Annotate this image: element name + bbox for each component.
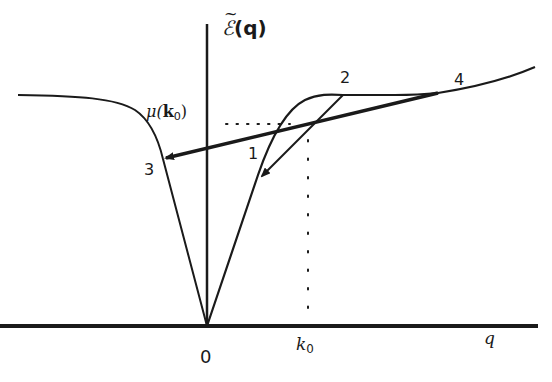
q-axis-label: q xyxy=(484,330,495,347)
k0-main: k xyxy=(296,334,306,354)
point-2-label: 2 xyxy=(340,70,350,86)
right-dispersion-curve xyxy=(207,67,535,326)
mu-var: k xyxy=(163,102,174,121)
origin-label: 0 xyxy=(200,348,211,366)
tilde-mark: ~ xyxy=(224,6,237,22)
mu-sub: 0 xyxy=(174,110,181,123)
mu-k0-label: μ(k0) xyxy=(146,104,187,122)
point-3-label: 3 xyxy=(144,162,154,178)
energy-axis-label: ~ ℰ (q) xyxy=(222,18,267,38)
energy-argument: (q) xyxy=(234,16,267,40)
dispersion-diagram xyxy=(0,0,552,382)
left-dispersion-curve xyxy=(18,95,207,326)
mu-suffix: ) xyxy=(181,102,187,121)
diagram-canvas: ~ ℰ (q) μ(k0) 1 2 3 4 0 k0 q xyxy=(0,0,552,382)
k0-label: k0 xyxy=(296,336,314,356)
k0-sub: 0 xyxy=(306,342,314,356)
point-4-label: 4 xyxy=(454,72,464,88)
point-1-label: 1 xyxy=(248,146,258,162)
mu-prefix: μ( xyxy=(146,102,163,121)
